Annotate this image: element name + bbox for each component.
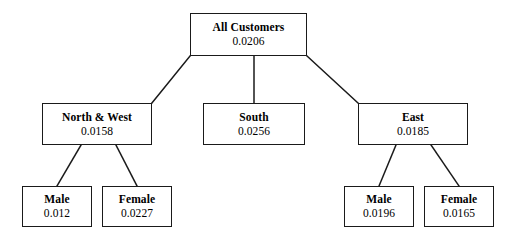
edge-root-to-east [307, 56, 358, 103]
node-value: 0.0158 [81, 125, 113, 138]
edge-east-to-female [431, 145, 459, 186]
edge-north-west-to-male [57, 145, 81, 186]
node-value: 0.0206 [232, 35, 264, 48]
edge-east-to-male [379, 145, 396, 186]
edge-root-to-north-west [152, 56, 190, 103]
edge-north-west-to-female [116, 145, 137, 186]
node-value: 0.0165 [443, 207, 475, 220]
node-label: East [402, 111, 424, 124]
tree-node-south[interactable]: South 0.0256 [203, 103, 305, 145]
node-label: Female [441, 193, 477, 206]
node-label: Female [119, 193, 155, 206]
node-value: 0.0196 [363, 207, 395, 220]
node-label: Male [44, 193, 69, 206]
tree-node-east-male[interactable]: Male 0.0196 [344, 186, 414, 227]
node-value: 0.0185 [397, 125, 429, 138]
tree-node-north-west-male[interactable]: Male 0.012 [22, 186, 92, 227]
tree-node-east-female[interactable]: Female 0.0165 [424, 186, 494, 227]
tree-node-all-customers[interactable]: All Customers 0.0206 [190, 13, 307, 56]
node-label: All Customers [213, 21, 285, 34]
tree-node-north-and-west[interactable]: North & West 0.0158 [42, 103, 152, 145]
node-label: Male [366, 193, 391, 206]
tree-node-north-west-female[interactable]: Female 0.0227 [102, 186, 172, 227]
node-value: 0.012 [44, 207, 70, 220]
node-label: South [239, 111, 268, 124]
tree-node-east[interactable]: East 0.0185 [358, 103, 468, 145]
node-value: 0.0256 [238, 125, 270, 138]
decision-tree-diagram: All Customers 0.0206 North & West 0.0158… [0, 0, 506, 249]
node-value: 0.0227 [121, 207, 153, 220]
node-label: North & West [62, 111, 132, 124]
